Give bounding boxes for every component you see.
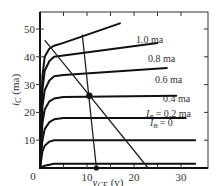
plot-border xyxy=(40,12,208,168)
curve-label: 0.8 ma xyxy=(148,53,176,64)
curve-label: 0.4 ma xyxy=(163,93,191,104)
x-axis-label-sub: CE xyxy=(97,181,107,186)
x-tick-label: 10 xyxy=(82,171,94,183)
curve-label: 0.6 ma xyxy=(155,74,183,85)
curve-0-6-ma xyxy=(40,96,176,168)
x-axis-label-unit: (v) xyxy=(111,176,124,186)
y-axis-label: iC(ma) xyxy=(9,74,23,107)
y-tick-label: 10 xyxy=(24,134,36,146)
y-tick-label: 40 xyxy=(24,51,36,63)
y-axis-label-sub: C xyxy=(14,97,23,103)
load-line xyxy=(45,40,148,168)
origin-label: 0 xyxy=(30,170,36,182)
curve-1-0-ma xyxy=(40,43,158,168)
x-axis-label: vCE(v) xyxy=(93,176,124,186)
x-tick-label: 20 xyxy=(129,171,141,183)
bias-dot-marker xyxy=(94,165,99,170)
q-point-marker xyxy=(86,93,92,99)
svg-text:iC(ma): iC(ma) xyxy=(9,74,23,107)
y-tick-label: 50 xyxy=(24,23,36,35)
plot-frame xyxy=(40,12,208,168)
curve-label: 1.0 ma xyxy=(136,34,164,45)
x-tick-label: 30 xyxy=(176,171,188,183)
y-tick-label: 20 xyxy=(24,106,36,118)
y-axis-label-unit: (ma) xyxy=(9,74,22,95)
transistor-characteristic-chart: 1020301020304050 IB= 0IB= 0.2 ma0.4 ma0.… xyxy=(0,0,221,186)
y-tick-label: 30 xyxy=(24,79,36,91)
characteristic-curves: IB= 0IB= 0.2 ma0.4 ma0.6 ma0.8 ma1.0 ma xyxy=(40,23,195,168)
svg-text:vCE(v): vCE(v) xyxy=(93,176,124,186)
